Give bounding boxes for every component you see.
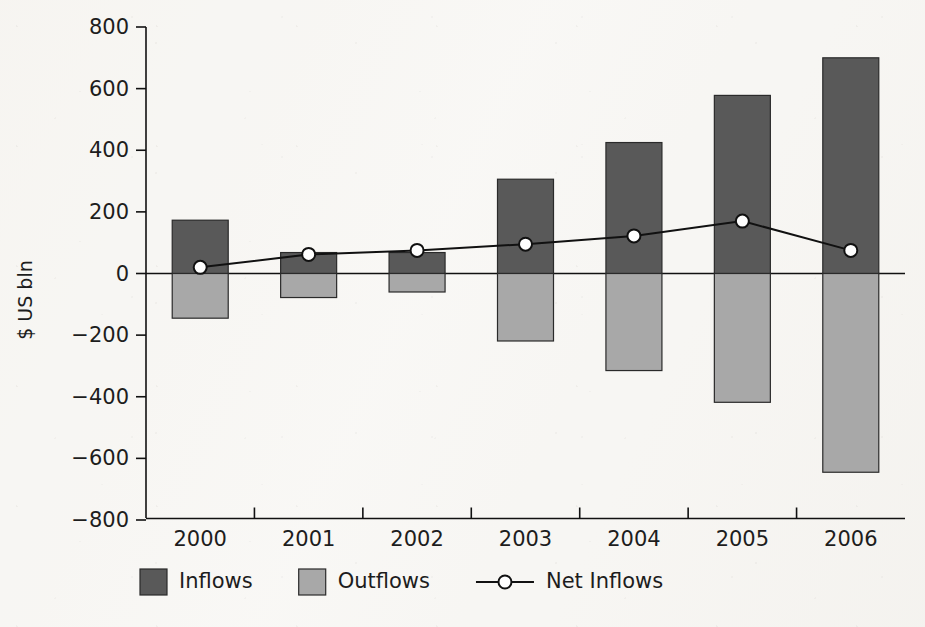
inflow-bar [823, 58, 879, 274]
legend-swatch [299, 569, 326, 595]
x-category-label: 2000 [173, 527, 226, 551]
chart-legend: InflowsOutflowsNet Inflows [140, 569, 663, 595]
net-inflow-marker [411, 244, 424, 257]
y-tick-label: 400 [89, 138, 129, 162]
x-category-label: 2002 [390, 527, 443, 551]
legend-line-marker [498, 576, 511, 589]
y-tick-label: 800 [89, 15, 129, 39]
outflow-bar [714, 274, 770, 403]
outflow-bar-group [172, 274, 879, 473]
y-tick-label: 600 [89, 77, 129, 101]
net-inflow-marker [194, 261, 207, 274]
y-tick-label: −400 [71, 385, 129, 409]
outflow-bar [172, 274, 228, 319]
x-category-label: 2001 [282, 527, 335, 551]
x-axis-category-labels: 2000200120022003200420052006 [173, 527, 877, 551]
net-inflow-marker [627, 229, 640, 242]
x-axis-ticks [254, 508, 796, 519]
x-category-label: 2003 [499, 527, 552, 551]
inflow-bar [498, 179, 554, 273]
legend-label: Outflows [338, 569, 430, 593]
outflow-bar [389, 274, 445, 292]
x-category-label: 2006 [824, 527, 877, 551]
net-inflow-marker [302, 248, 315, 261]
y-tick-label: −600 [71, 446, 129, 470]
inflow-bar [606, 143, 662, 274]
outflow-bar [823, 274, 879, 473]
inflows-outflows-net-chart: 8006004002000−200−400−600−800 2000200120… [0, 0, 925, 627]
net-inflow-marker [844, 244, 857, 257]
chart-page: 8006004002000−200−400−600−800 2000200120… [0, 0, 925, 627]
legend-label: Inflows [179, 569, 253, 593]
inflow-bar [714, 95, 770, 273]
y-tick-label: 0 [116, 262, 129, 286]
y-tick-label: −800 [71, 508, 129, 532]
y-tick-label: −200 [71, 323, 129, 347]
outflow-bar [281, 274, 337, 298]
y-tick-label: 200 [89, 200, 129, 224]
x-category-label: 2004 [607, 527, 660, 551]
legend-swatch [140, 569, 167, 595]
outflow-bar [498, 274, 554, 341]
legend-label: Net Inflows [546, 569, 663, 593]
y-axis-tick-labels: 8006004002000−200−400−600−800 [71, 15, 129, 532]
y-axis-ticks [136, 27, 146, 520]
net-inflow-marker [519, 238, 532, 251]
outflow-bar [606, 274, 662, 371]
y-axis-title: $ US bln [14, 260, 36, 340]
net-inflow-marker [736, 215, 749, 228]
x-category-label: 2005 [716, 527, 769, 551]
